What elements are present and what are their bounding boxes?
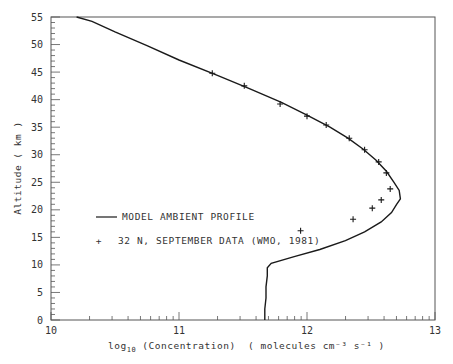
y-tick-label: 20 xyxy=(31,204,43,215)
y-axis-label: Altitude ( km ) xyxy=(12,121,23,214)
legend-plus-marker: + xyxy=(96,235,102,246)
x-tick-label: 10 xyxy=(45,325,57,336)
legend-model-label: MODEL AMBIENT PROFILE xyxy=(122,211,255,222)
y-tick-label: 45 xyxy=(31,67,43,78)
y-tick-label: 40 xyxy=(31,94,43,105)
y-tick-label: 55 xyxy=(31,12,43,23)
data-point-marker xyxy=(277,101,283,107)
plot-axes xyxy=(51,17,435,320)
model-profile-line xyxy=(77,17,401,320)
x-axis-units: ( molecules cm⁻³ s⁻¹ ) xyxy=(248,340,385,351)
y-tick-label: 30 xyxy=(31,149,43,160)
data-point-marker xyxy=(209,70,215,76)
y-tick-labels: 0510152025303540455055 xyxy=(31,12,43,326)
x-tick-label: 13 xyxy=(429,325,441,336)
x-axis-title: log10 (Concentration) ( molecules cm⁻³ s… xyxy=(108,340,385,354)
data-point-marker xyxy=(350,216,356,222)
x-axis-label: log10 (Concentration) xyxy=(108,340,236,354)
y-tick-label: 25 xyxy=(31,177,43,188)
data-point-marker xyxy=(378,197,384,203)
y-tick-label: 10 xyxy=(31,259,43,270)
altitude-concentration-chart: 0510152025303540455055 10111213 Altitude… xyxy=(0,0,453,364)
legend-data-label: 32 N, SEPTEMBER DATA (WMO, 1981) xyxy=(118,235,320,246)
data-point-marker xyxy=(387,186,393,192)
y-tick-label: 0 xyxy=(37,315,43,326)
y-axis-title: Altitude ( km ) xyxy=(12,121,23,214)
y-tick-label: 15 xyxy=(31,232,43,243)
data-point-marker xyxy=(369,205,375,211)
x-tick-labels: 10111213 xyxy=(45,325,441,336)
x-tick-label: 11 xyxy=(173,325,185,336)
plot-frame xyxy=(51,17,435,320)
y-tick-label: 50 xyxy=(31,39,43,50)
x-tick-label: 12 xyxy=(301,325,313,336)
data-point-marker xyxy=(298,228,304,234)
y-tick-label: 35 xyxy=(31,122,43,133)
legend: MODEL AMBIENT PROFILE + 32 N, SEPTEMBER … xyxy=(96,211,320,246)
y-tick-label: 5 xyxy=(37,287,43,298)
